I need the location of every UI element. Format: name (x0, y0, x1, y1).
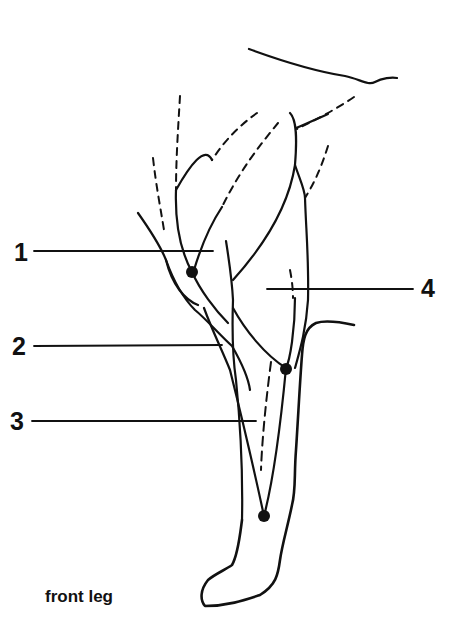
dashed-line (261, 362, 271, 470)
back-outline (249, 49, 397, 83)
muscle-line (176, 155, 212, 190)
muscle-line (138, 213, 198, 305)
muscle-line (166, 260, 250, 390)
dashed-line (290, 270, 293, 298)
muscle-line (264, 298, 295, 516)
figure-caption: front leg (45, 587, 113, 607)
muscle-line (233, 308, 286, 368)
point-marker-3 (258, 510, 270, 522)
muscle-line (296, 114, 328, 128)
leader-line-2 (34, 345, 222, 346)
dashed-line (222, 123, 278, 207)
dashed-line (153, 158, 164, 230)
label-2: 2 (12, 334, 26, 359)
leg-outline (202, 322, 354, 606)
muscle-line (194, 207, 222, 270)
front-leg-diagram (0, 0, 450, 624)
label-4: 4 (421, 276, 435, 301)
label-3: 3 (10, 409, 24, 434)
muscle-line (226, 241, 242, 520)
point-marker-2 (280, 363, 292, 375)
label-1: 1 (14, 240, 28, 265)
dashed-line (305, 146, 328, 198)
dashed-line (212, 113, 257, 160)
dashed-line (176, 96, 180, 190)
muscle-line (233, 113, 296, 280)
point-marker-1 (186, 266, 198, 278)
